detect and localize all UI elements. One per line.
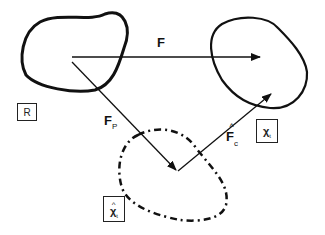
arrow-f-label: F [157,36,165,49]
arrow-f-c-hat-label: ^ Fc [226,130,238,143]
arrow-f-c-hat-subscript: c [234,139,238,148]
arrow-f-c-hat-hat: ^ [229,123,233,132]
region-chi-hat-t-subscript: t [116,213,118,219]
region-r-outline [22,13,127,91]
region-chi-hat-t-label: ^ χt [110,205,118,217]
region-chi-t-label: χt [263,125,271,137]
region-r-label: R [23,107,30,118]
arrow-f-p-label: FP [104,114,117,127]
arrow-f-p-symbol: F [104,113,112,128]
region-chi-hat-t-hat: ^ [112,200,116,209]
region-r-label-box: R [17,103,37,121]
arrow-f-symbol: F [157,35,165,50]
region-chi-t-subscript: t [269,133,271,139]
region-chi-t-outline [211,18,307,109]
region-chi-t-label-box: χt [256,119,278,143]
arrow-f-p [72,62,176,170]
region-chi-hat-t-label-box: ^ χt [103,196,125,222]
arrow-f-p-subscript: P [112,122,117,131]
